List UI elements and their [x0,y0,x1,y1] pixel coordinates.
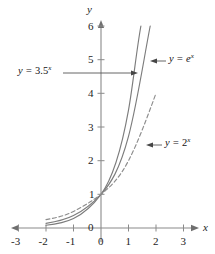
y-axis-top-arrowhead [98,20,104,28]
x-axis-left-arrowhead [11,225,19,231]
y-tick-label-3: 3 [88,122,94,133]
y-tick-label-1: 1 [89,189,95,200]
curve-e-power-x [46,26,150,223]
curve-label-e-power-x: y = ex [169,54,194,65]
leader-arrowhead-e [150,58,157,63]
curve-label-e-prefix: y = [169,53,186,64]
x-tick-label-3: 3 [181,236,187,247]
y-axis-label: y [87,4,92,15]
x-tick-label-0: 0 [98,236,104,247]
y-tick-label-2: 2 [88,155,94,166]
curve-label-2-exponent: x [187,136,190,144]
y-tick-label-4: 4 [88,88,94,99]
curve-label-3.5-prefix: y = [18,65,35,76]
y-tick-label-0: 0 [88,222,94,233]
exponential-functions-figure: y x -3 -2 -1 0 1 2 3 0 1 2 3 4 5 6 y = 3… [0,0,215,254]
x-tick-label--2: -2 [39,236,48,247]
x-tick-label--3: -3 [11,236,20,247]
y-tick-label-5: 5 [88,54,94,65]
curve-label-3.5-base: 3.5 [35,65,48,76]
x-tick-label-1: 1 [126,236,132,247]
curve-label-3.5-power-x: y = 3.5x [18,66,51,77]
x-axis-right-arrowhead [191,225,199,231]
x-tick-label--1: -1 [66,236,75,247]
curve-label-3.5-exponent: x [48,64,51,72]
curve-label-e-exponent: x [191,52,194,60]
leader-arrowhead-2 [146,142,153,147]
x-tick-label-2: 2 [153,236,159,247]
y-tick-label-6: 6 [88,21,94,32]
curve-label-2-prefix: y = [165,137,182,148]
x-axis-label: x [203,222,208,233]
plot-area [0,0,215,254]
curve-label-2-power-x: y = 2x [165,138,190,149]
